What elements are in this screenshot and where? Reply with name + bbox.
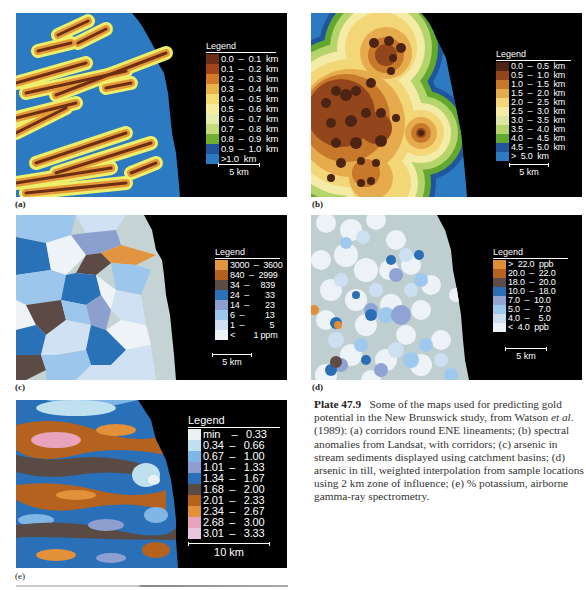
legend-swatch <box>215 280 228 290</box>
legend-swatch <box>496 89 509 98</box>
legend-rows: > 22.0 ppb20.0 – 22.018.0 – 20.010.0 – 1… <box>493 260 568 332</box>
legend-swatch <box>493 260 506 269</box>
scale-line <box>505 347 547 351</box>
scale-bar-a: 5 km <box>218 163 260 177</box>
legend-title: Legend <box>493 247 568 259</box>
legend-row: 3000 – 3600 <box>215 260 280 270</box>
legend-label: < 4.0 ppb <box>506 323 549 332</box>
legend-label: 1 – 5 <box>228 320 274 330</box>
legend-title: Legend <box>188 414 280 428</box>
legend-row: < 1 ppm <box>215 330 280 340</box>
scale-label: 10 km <box>188 546 270 558</box>
legend-swatch <box>206 84 219 94</box>
legend-swatch <box>188 528 201 539</box>
caption-italic: et al <box>551 411 571 423</box>
scale-line <box>509 163 549 167</box>
legend-rows: min – 0.330.34 – 0.660.67 – 1.001.01 – 1… <box>188 429 280 539</box>
map-panel-e: Legend min – 0.330.34 – 0.660.67 – 1.001… <box>16 400 287 568</box>
legend-swatch <box>188 495 201 506</box>
legend-swatch <box>215 270 228 280</box>
panel-label-d: (d) <box>312 382 323 392</box>
panel-label-b: (b) <box>312 199 323 209</box>
legend-swatch <box>188 473 201 484</box>
scale-bar-d: 5 km <box>505 347 547 361</box>
legend-swatch <box>496 80 509 89</box>
figure-caption: Plate 47.9 Some of the maps used for pre… <box>314 398 584 504</box>
legend-swatch <box>215 320 228 330</box>
legend-row: 6 – 13 <box>215 310 280 320</box>
legend-rows: 0.0 – 0.5 km0.5 – 1.0 km1.0 – 1.5 km1.5 … <box>496 62 571 161</box>
legend-swatch <box>493 296 506 305</box>
legend-swatch <box>188 506 201 517</box>
legend-title: Legend <box>496 49 571 61</box>
scale-line <box>218 163 260 167</box>
panel-label-e: (e) <box>15 571 25 581</box>
legend-swatch <box>206 54 219 64</box>
legend-swatch <box>215 310 228 320</box>
legend-row: 24 – 33 <box>215 290 280 300</box>
map-panel-c: Legend 3000 – 3600840 – 299934 – 83924 –… <box>16 215 287 380</box>
legend-row: 34 – 839 <box>215 280 280 290</box>
legend-swatch <box>496 125 509 134</box>
map-panel-a: Legend 0.0 – 0.1 km0.1 – 0.2 km0.2 – 0.3… <box>16 13 287 197</box>
legend-swatch <box>493 269 506 278</box>
legend-row: 840 – 2999 <box>215 270 280 280</box>
legend-swatch <box>215 300 228 310</box>
plate-number: Plate 47.9 <box>314 398 361 410</box>
legend-label: 840 – 2999 <box>228 270 278 280</box>
legend-row: 3.01 – 3.33 <box>188 528 280 539</box>
map-panel-d: Legend > 22.0 ppb20.0 – 22.018.0 – 20.01… <box>311 215 582 380</box>
legend-c: Legend 3000 – 3600840 – 299934 – 83924 –… <box>215 247 280 340</box>
legend-swatch <box>188 462 201 473</box>
scale-bar-b: 5 km <box>509 163 549 177</box>
legend-label: 6 – 13 <box>228 310 275 320</box>
legend-swatch <box>496 107 509 116</box>
legend-rows: 3000 – 3600840 – 299934 – 83924 – 3314 –… <box>215 260 280 340</box>
legend-a: Legend 0.0 – 0.1 km0.1 – 0.2 km0.2 – 0.3… <box>206 41 276 164</box>
scale-label: 5 km <box>505 351 547 361</box>
legend-swatch <box>496 71 509 80</box>
caption-rest: . (1989): (a) corridors round ENE lineam… <box>314 411 584 502</box>
legend-row: > 5.0 km <box>496 152 571 161</box>
legend-rows: 0.0 – 0.1 km0.1 – 0.2 km0.2 – 0.3 km0.3 … <box>206 54 276 164</box>
legend-swatch <box>496 116 509 125</box>
legend-swatch <box>188 451 201 462</box>
scale-label: 5 km <box>509 167 549 177</box>
legend-swatch <box>206 134 219 144</box>
legend-swatch <box>493 314 506 323</box>
legend-swatch <box>215 260 228 270</box>
legend-swatch <box>496 62 509 71</box>
legend-swatch <box>206 64 219 74</box>
legend-swatch <box>493 305 506 314</box>
legend-label: 14 – 23 <box>228 300 275 310</box>
legend-swatch <box>215 290 228 300</box>
legend-swatch <box>188 429 201 440</box>
legend-swatch <box>206 74 219 84</box>
legend-label: > 5.0 km <box>509 152 549 161</box>
legend-swatch <box>215 330 228 340</box>
legend-row: < 4.0 ppb <box>493 323 568 332</box>
legend-label: 34 – 839 <box>228 280 275 290</box>
legend-swatch <box>206 94 219 104</box>
legend-swatch <box>188 517 201 528</box>
legend-label: < 1 ppm <box>228 330 277 340</box>
panel-label-a: (a) <box>15 199 26 209</box>
legend-swatch <box>206 104 219 114</box>
legend-swatch <box>493 287 506 296</box>
legend-swatch <box>496 134 509 143</box>
legend-swatch <box>496 98 509 107</box>
legend-swatch <box>496 152 509 161</box>
scale-label: 5 km <box>218 167 260 177</box>
scale-bar-e: 10 km <box>188 542 270 558</box>
legend-swatch <box>188 484 201 495</box>
panel-label-c: (c) <box>15 382 25 392</box>
legend-d: Legend > 22.0 ppb20.0 – 22.018.0 – 20.01… <box>493 247 568 332</box>
scale-line <box>212 353 252 357</box>
legend-label: 3000 – 3600 <box>228 260 282 270</box>
legend-title: Legend <box>206 41 276 53</box>
legend-swatch <box>493 278 506 287</box>
legend-label: 3.01 – 3.33 <box>201 528 264 539</box>
legend-row: 1 – 5 <box>215 320 280 330</box>
legend-e: Legend min – 0.330.34 – 0.660.67 – 1.001… <box>188 414 280 539</box>
legend-row: 14 – 23 <box>215 300 280 310</box>
